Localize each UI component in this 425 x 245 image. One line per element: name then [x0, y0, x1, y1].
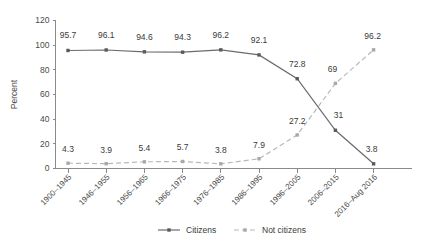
data-point-label: 96.1	[98, 30, 115, 40]
y-axis-tick-label: 120	[35, 15, 49, 25]
data-point-label: 3.9	[100, 145, 112, 155]
data-point-label: 96.2	[364, 31, 381, 41]
legend-swatch-marker-citizens	[167, 228, 170, 231]
data-point-label: 94.3	[174, 32, 191, 42]
y-axis-tick-label: 100	[35, 40, 49, 50]
y-axis-tick-label: 20	[40, 139, 50, 149]
x-axis-tick-label: 1900–1945	[39, 172, 74, 207]
data-point-label: 94.6	[136, 32, 153, 42]
legend-swatch-marker-not-citizens	[243, 228, 246, 231]
data-point-marker	[257, 157, 260, 160]
data-point-marker	[219, 48, 222, 51]
data-point-label: 72.8	[289, 59, 306, 69]
y-axis-tick-label: 40	[40, 114, 50, 124]
x-axis-tick-label: 2006–2015	[306, 172, 341, 207]
data-point-marker	[105, 162, 108, 165]
legend-label-citizens: Citizens	[186, 225, 216, 235]
data-point-marker	[334, 82, 337, 85]
data-point-label: 5.4	[138, 143, 150, 153]
data-point-marker	[66, 161, 69, 164]
data-point-label: 95.7	[60, 30, 77, 40]
data-point-marker	[257, 53, 260, 56]
data-point-label: 31	[334, 110, 344, 120]
data-point-marker	[66, 49, 69, 52]
data-point-label: 7.9	[253, 140, 265, 150]
data-point-label: 4.3	[62, 144, 74, 154]
data-point-marker	[143, 160, 146, 163]
chart-canvas: 020406080100120 1900–19451946–19551956–1…	[0, 0, 425, 245]
chart-legend: CitizensNot citizens	[158, 225, 306, 235]
data-point-label: 69	[328, 64, 338, 74]
data-point-marker	[181, 50, 184, 53]
x-axis-tick-label: 1976–1985	[192, 172, 227, 207]
x-axis: 1900–19451946–19551956–19651966–19751976…	[39, 169, 412, 219]
x-axis-tick-label: 1956–1965	[115, 172, 150, 207]
line-chart: 020406080100120 1900–19451946–19551956–1…	[0, 0, 425, 245]
y-axis-tick-label: 0	[45, 163, 50, 173]
x-axis-tick-label: 1986–1995	[230, 172, 265, 207]
data-point-label: 3.8	[366, 144, 378, 154]
legend-label-not-citizens: Not citizens	[262, 225, 306, 235]
data-point-marker	[181, 160, 184, 163]
y-axis-tick-label: 80	[40, 65, 50, 75]
y-axis-label-text: Percent	[9, 79, 19, 109]
data-point-marker	[372, 48, 375, 51]
data-point-marker	[143, 50, 146, 53]
data-point-marker	[105, 48, 108, 51]
data-point-marker	[372, 162, 375, 165]
x-axis-tick-label: 1996–2005	[268, 172, 303, 207]
data-point-label: 5.7	[177, 142, 189, 152]
data-point-label: 92.1	[251, 35, 268, 45]
y-axis-tick-label: 60	[40, 89, 50, 99]
data-point-marker	[296, 77, 299, 80]
data-point-label: 96.2	[213, 30, 230, 40]
data-point-label: 27.2	[289, 116, 306, 126]
x-axis-tick-label: 1966–1975	[153, 172, 188, 207]
data-point-marker	[334, 129, 337, 132]
y-axis-title: Percent	[9, 79, 19, 109]
data-point-marker	[296, 133, 299, 136]
y-axis: 020406080100120	[35, 15, 55, 173]
x-axis-tick-label: 1946–1955	[77, 172, 112, 207]
data-point-marker	[219, 162, 222, 165]
data-point-label: 3.8	[215, 145, 227, 155]
